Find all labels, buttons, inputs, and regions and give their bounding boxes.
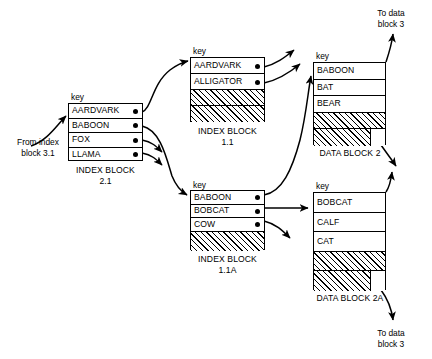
- block-row-empty: [191, 106, 264, 122]
- note-to-data-top-line1: To data: [358, 8, 424, 19]
- block-row: BABOON: [69, 119, 142, 134]
- row-label: BOBCAT: [317, 198, 352, 207]
- block-row: ALLIGATOR: [191, 74, 264, 90]
- key-label-index-block-2-1: key: [71, 92, 84, 102]
- note-to-data-block-top: To data block 3: [358, 8, 424, 30]
- block-row: BOBCAT: [314, 193, 385, 213]
- row-pointer-dot: [255, 64, 260, 69]
- data-block-2: BABOON BAT BEAR: [313, 62, 386, 145]
- block-row-empty: [191, 90, 264, 106]
- row-label: BABOON: [317, 66, 354, 75]
- diagram-canvas: From index block 3.1 To data block 3 To …: [0, 0, 432, 359]
- row-pointer-dot: [133, 152, 138, 157]
- note-to-data-block-bottom: To data block 3: [358, 328, 424, 350]
- row-label: AARDVARK: [194, 61, 241, 70]
- data-block-2a: BOBCAT CALF CAT: [313, 192, 386, 290]
- row-label: COW: [194, 220, 215, 229]
- caption-line1: INDEX BLOCK: [58, 165, 153, 176]
- block-row: BOBCAT: [191, 205, 264, 219]
- note-from-index-line2: block 3.1: [2, 148, 74, 159]
- row-free-space: [370, 271, 385, 291]
- block-row-empty: [314, 113, 385, 130]
- row-label: BABOON: [72, 121, 109, 130]
- row-pointer-dot: [255, 209, 260, 214]
- caption-line2: 1.1A: [180, 265, 275, 276]
- key-label-index-block-1-1: key: [193, 46, 206, 56]
- caption-index-block-2-1: INDEX BLOCK 2.1: [58, 165, 153, 186]
- row-label: BOBCAT: [194, 206, 229, 215]
- row-label: BABOON: [194, 193, 231, 202]
- caption-data-block-2: DATA BLOCK 2: [302, 148, 398, 159]
- row-label: ALLIGATOR: [194, 77, 242, 86]
- row-pointer-dot: [133, 138, 138, 143]
- block-row: BABOON: [191, 191, 264, 205]
- row-pointer-dot: [133, 109, 138, 114]
- caption-index-block-1-1a: INDEX BLOCK 1.1A: [180, 254, 275, 275]
- block-row-empty: [314, 252, 385, 272]
- row-label: BAT: [317, 83, 333, 92]
- note-from-index-line1: From index: [2, 137, 74, 148]
- key-label-data-block-2: key: [316, 51, 329, 61]
- block-row-partial: [314, 129, 385, 146]
- caption-line2: 2.1: [58, 176, 153, 187]
- block-row: BABOON: [314, 63, 385, 80]
- key-label-index-block-1-1a: key: [193, 180, 206, 190]
- row-label: CALF: [317, 218, 339, 227]
- index-block-1-1: AARDVARK ALLIGATOR: [190, 57, 265, 122]
- caption-index-block-1-1: INDEX BLOCK 1.1: [180, 126, 275, 147]
- block-row-empty: [191, 232, 264, 252]
- row-pointer-dot: [133, 123, 138, 128]
- note-to-data-bottom-line1: To data: [358, 328, 424, 339]
- block-row: FOX: [69, 133, 142, 148]
- block-row: COW: [191, 218, 264, 232]
- caption-data-block-2a: DATA BLOCK 2A: [300, 293, 400, 304]
- index-block-1-1a: BABOON BOBCAT COW: [190, 190, 265, 250]
- note-to-data-top-line2: block 3: [358, 19, 424, 30]
- caption-line1: INDEX BLOCK: [180, 254, 275, 265]
- note-to-data-bottom-line2: block 3: [358, 339, 424, 350]
- row-label: FOX: [72, 135, 90, 144]
- row-pointer-dot: [255, 222, 260, 227]
- key-label-data-block-2a: key: [316, 181, 329, 191]
- block-row: AARDVARK: [191, 58, 264, 74]
- row-label: BEAR: [317, 99, 341, 108]
- block-row: LLAMA: [69, 148, 142, 163]
- block-row: CALF: [314, 213, 385, 233]
- caption-line1: DATA BLOCK 2A: [300, 293, 400, 304]
- row-free-space: [370, 129, 385, 146]
- block-row-partial: [314, 271, 385, 291]
- caption-line1: INDEX BLOCK: [180, 126, 275, 137]
- block-row: AARDVARK: [69, 104, 142, 119]
- row-label: CAT: [317, 237, 334, 246]
- row-label: LLAMA: [72, 150, 101, 159]
- note-from-index-block: From index block 3.1: [2, 137, 74, 159]
- row-label: AARDVARK: [72, 106, 119, 115]
- row-pointer-dot: [255, 80, 260, 85]
- caption-line2: 1.1: [180, 137, 275, 148]
- caption-line1: DATA BLOCK 2: [302, 148, 398, 159]
- block-row: CAT: [314, 232, 385, 252]
- index-block-2-1: AARDVARK BABOON FOX LLAMA: [68, 103, 143, 161]
- row-pointer-dot: [255, 195, 260, 200]
- block-row: BAT: [314, 80, 385, 97]
- block-row: BEAR: [314, 96, 385, 113]
